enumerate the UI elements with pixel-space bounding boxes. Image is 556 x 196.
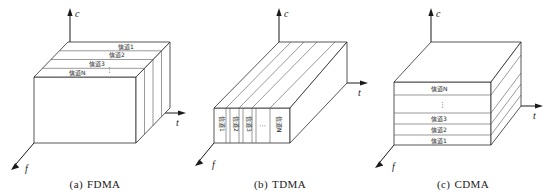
cdma-channel-label-n: 信道N [431, 85, 448, 93]
caption-name-cdma: CDMA [454, 178, 489, 190]
figure-canvas: c t f [0, 0, 556, 196]
tdma-drawing: c t f [190, 0, 370, 196]
fdma-front-face [34, 77, 136, 143]
tdma-ellipsis: ⋯ [259, 122, 266, 130]
fdma-ellipsis: ⋮ [106, 66, 113, 74]
axis-f-label: f [212, 159, 216, 170]
axis-c-tdma [276, 8, 281, 42]
cdma-channel-label-3: 信道3 [431, 115, 447, 123]
axis-c-label: c [436, 8, 441, 19]
axis-t-label: t [176, 117, 179, 128]
cdma-channel-label-2: 信道2 [431, 126, 447, 134]
axis-c-fdma [67, 8, 72, 42]
fdma-channel-label-n: 信道N [69, 69, 86, 77]
axis-t-label: t [533, 110, 536, 121]
panel-cdma: c t f [370, 0, 556, 196]
caption-index-cdma: (c) [437, 178, 450, 190]
caption-name-fdma: FDMA [87, 178, 120, 190]
caption-fdma: (a)FDMA [0, 178, 190, 190]
cdma-ellipsis: ⋮ [439, 101, 446, 109]
tdma-channel-label-2: 信道2 [232, 116, 240, 132]
cdma-drawing: c t f [370, 0, 556, 196]
fdma-channel-label-2: 信道2 [109, 51, 125, 59]
axis-c-label: c [75, 8, 80, 19]
caption-name-tdma: TDMA [272, 178, 306, 190]
caption-tdma: (b)TDMA [190, 178, 370, 190]
caption-index-tdma: (b) [254, 178, 268, 190]
caption-cdma: (c)CDMA [370, 178, 556, 190]
fdma-drawing: c t f [0, 0, 190, 196]
axis-c-label: c [284, 8, 289, 19]
cdma-channel-label-1: 信道1 [431, 137, 447, 145]
panel-fdma: c t f [0, 0, 190, 196]
tdma-channel-label-n: 信道N [275, 116, 283, 133]
tdma-channel-label-3: 信道3 [245, 116, 253, 132]
caption-index-fdma: (a) [70, 178, 83, 190]
fdma-channel-label-1: 信道1 [118, 43, 134, 51]
axis-f-fdma [11, 143, 34, 170]
axis-f-label: f [392, 161, 396, 172]
axis-f-label: f [25, 163, 29, 174]
axis-c-cdma [428, 8, 433, 42]
tdma-channel-label-1: 信道1 [218, 116, 226, 132]
axis-t-label: t [358, 87, 361, 98]
fdma-channel-label-3: 信道3 [89, 60, 105, 68]
axis-t-tdma [347, 80, 368, 85]
axis-t-cdma [521, 103, 543, 108]
panel-tdma: c t f [190, 0, 370, 196]
